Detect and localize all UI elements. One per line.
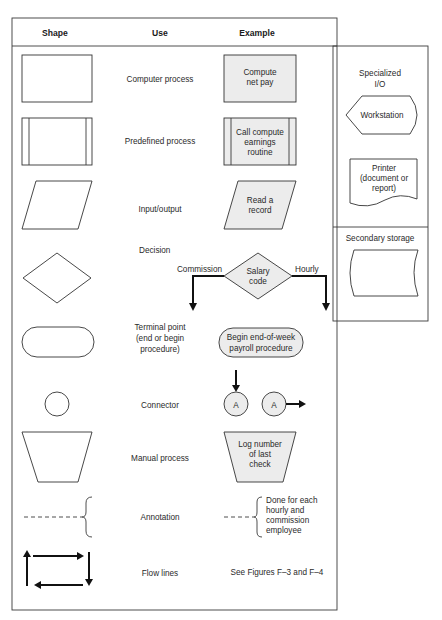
header-use: Use xyxy=(152,28,168,38)
example-text-2: code xyxy=(249,277,267,286)
workstation-label: Workstation xyxy=(360,111,404,120)
example-text-3: check xyxy=(249,460,271,469)
terminal-shape xyxy=(22,327,94,357)
commission-arrow xyxy=(193,276,224,304)
example-text-4: employee xyxy=(266,526,302,535)
example-text-1: Begin end-of-week xyxy=(227,333,296,342)
example-text-2: net pay xyxy=(247,78,275,87)
example-flow-lines-ref: See Figures F–3 and F–4 xyxy=(231,568,324,577)
hourly-arrow xyxy=(292,276,326,304)
branch-commission: Commission xyxy=(177,265,222,274)
example-text-2: of last xyxy=(249,450,272,459)
header-shape: Shape xyxy=(42,28,68,38)
use-flow-lines: Flow lines xyxy=(142,569,178,578)
manual-process-shape xyxy=(22,432,92,482)
secondary-storage-shape xyxy=(350,250,418,296)
computer-process-shape xyxy=(22,55,92,102)
connector-shape xyxy=(45,392,69,416)
specialized-io-title-1: Specialized xyxy=(359,69,401,78)
example-text-2: payroll procedure xyxy=(229,344,293,353)
example-text-2: hourly and xyxy=(266,506,305,515)
use-decision: Decision xyxy=(139,246,171,255)
flow-lines-shape xyxy=(23,550,93,589)
connector-label: A xyxy=(271,401,277,410)
example-text-1: Compute xyxy=(243,68,277,77)
branch-hourly: Hourly xyxy=(295,265,320,274)
example-text-1: Done for each xyxy=(266,496,318,505)
example-annotation-brace xyxy=(254,497,262,537)
use-manual-process: Manual process xyxy=(131,454,189,463)
example-text-2: record xyxy=(248,206,272,215)
connector-label: A xyxy=(233,401,239,410)
example-text-3: commission xyxy=(266,516,310,525)
example-text-1: Call compute xyxy=(236,128,284,137)
use-computer-process: Computer process xyxy=(127,75,194,84)
use-terminal-2: (end or begin xyxy=(136,334,185,343)
use-predefined-process: Predefined process xyxy=(125,137,196,146)
decision-shape xyxy=(23,253,91,303)
printer-label-3: report) xyxy=(372,184,396,193)
example-read-a-record xyxy=(224,181,296,229)
example-text-1: Log number xyxy=(238,440,282,449)
example-text-2: earnings xyxy=(244,138,275,147)
predefined-process-shape xyxy=(22,118,92,165)
input-output-shape xyxy=(22,181,92,229)
example-text-3: routine xyxy=(247,148,272,157)
use-terminal-3: procedure) xyxy=(140,345,180,354)
specialized-io-title-2: I/O xyxy=(375,80,386,89)
use-terminal-1: Terminal point xyxy=(135,323,187,332)
use-annotation: Annotation xyxy=(140,513,180,522)
secondary-storage-title: Secondary storage xyxy=(346,234,415,243)
use-connector: Connector xyxy=(141,401,179,410)
annotation-brace xyxy=(82,497,92,537)
example-text-1: Read a xyxy=(247,196,274,205)
printer-label-1: Printer xyxy=(372,164,396,173)
example-text-1: Salary xyxy=(246,267,270,276)
flowchart-symbols-table: Shape Use Example Specialized I/O Workst… xyxy=(0,0,442,620)
use-input-output: Input/output xyxy=(138,205,182,214)
header-example: Example xyxy=(239,28,275,38)
printer-label-2: (document or xyxy=(360,174,409,183)
example-salary-code xyxy=(224,253,292,299)
